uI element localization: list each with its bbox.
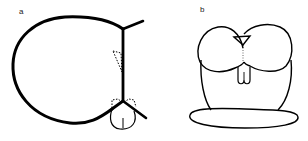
panel-a-drawing [0,0,160,141]
panel-b: b [160,0,308,141]
panel-a: a [0,0,160,141]
panel-b-drawing [160,0,308,141]
